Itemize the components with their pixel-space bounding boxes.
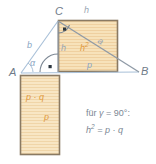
formula-condition-value: 90°:	[114, 108, 130, 118]
angle-arc-foot	[40, 54, 58, 72]
geometry-figure: A B C b a h h p α p h2 p · q für γ = 90°…	[0, 0, 156, 164]
right-angle-marker-c	[63, 28, 66, 31]
formula-condition-prefix: für	[86, 108, 99, 118]
formula-result-line: h2 = p · q	[86, 120, 150, 137]
formula-result-rest: = p · q	[95, 125, 123, 135]
right-angle-marker-foot	[49, 65, 52, 68]
angle-arc-alpha	[28, 63, 33, 72]
figure-canvas	[0, 0, 156, 164]
rectangle-p-times-q	[21, 76, 60, 155]
formula-condition-line: für γ = 90°:	[86, 106, 150, 120]
formula-condition-equals: =	[104, 108, 114, 118]
formula-block: für γ = 90°: h2 = p · q	[86, 106, 150, 137]
